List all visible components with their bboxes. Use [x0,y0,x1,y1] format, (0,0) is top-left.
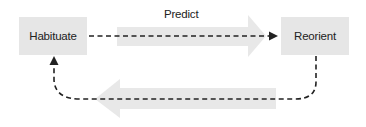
edge-label-predict: Predict [164,8,198,20]
arrowhead-up-icon [50,56,59,65]
node-label: Reorient [294,30,336,42]
node-habituate: Habituate [19,17,87,55]
node-reorient: Reorient [281,17,349,55]
cycle-diagram: Habituate Reorient Predict [0,0,366,127]
node-label: Habituate [29,30,76,42]
arrowhead-right-icon [269,32,278,41]
